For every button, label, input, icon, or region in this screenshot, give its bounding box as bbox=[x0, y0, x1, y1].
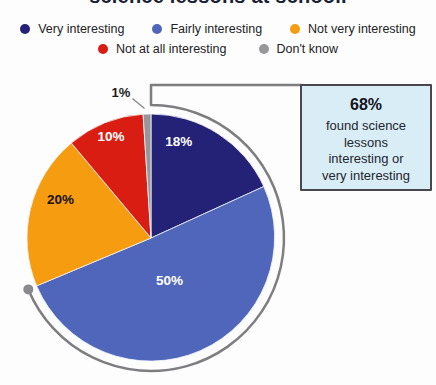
callout-box: 68% found science lessons interesting or… bbox=[300, 84, 432, 191]
pie-slice-label: 20% bbox=[47, 192, 74, 207]
callout-text: found science lessons interesting or ver… bbox=[302, 118, 430, 184]
pie-slice-label: 18% bbox=[165, 134, 192, 149]
callout-headline: 68% bbox=[302, 96, 430, 114]
one-percent-leader-line bbox=[133, 99, 144, 108]
infographic-canvas: science lessons at school. Very interest… bbox=[0, 0, 436, 385]
pie-chart: 18%50%20%10%1% bbox=[0, 0, 436, 385]
arc-end-dot-icon bbox=[23, 284, 33, 294]
pie-slice-label: 10% bbox=[97, 129, 124, 144]
pie-slice-label: 50% bbox=[156, 273, 183, 288]
pie-slice-label-dont-know: 1% bbox=[112, 85, 131, 100]
